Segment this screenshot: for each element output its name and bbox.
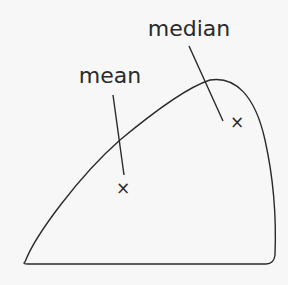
mean-marker-icon: × [116, 178, 130, 198]
distribution-curve [24, 79, 275, 264]
mean-label: mean [79, 63, 141, 88]
median-marker-icon: × [230, 112, 244, 132]
mean-pointer-line [113, 95, 124, 175]
distribution-diagram: mean median × × [0, 0, 288, 285]
median-label: median [148, 16, 230, 41]
median-pointer-line [189, 46, 223, 121]
